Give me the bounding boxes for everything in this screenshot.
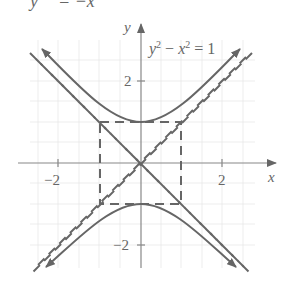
y-tick-neg2: −2 [113, 238, 129, 253]
y-tick-2: 2 [124, 74, 132, 89]
x-axis-label: x [268, 170, 275, 185]
eq-mid: − [161, 40, 178, 57]
header-fragment-left: y [30, 0, 38, 10]
y-axis-label: y [124, 20, 131, 35]
x-tick-neg2: −2 [44, 173, 60, 188]
x-tick-2: 2 [218, 173, 226, 188]
hyperbola-plot [0, 0, 287, 283]
header-fragment-right: = −x [58, 0, 95, 10]
eq-end: = 1 [190, 40, 215, 57]
grid [30, 40, 255, 268]
axes [18, 24, 276, 268]
equation-label: y2 − x2 = 1 [149, 40, 215, 57]
